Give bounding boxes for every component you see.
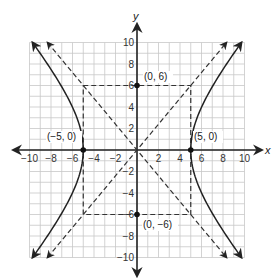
point-right-vertex	[188, 147, 194, 153]
x-tick-label: 4	[177, 153, 183, 164]
x-tick-label: −6	[67, 153, 79, 164]
x-tick-label: 6	[199, 153, 205, 164]
label-top-covertex: (0, 6)	[144, 71, 167, 82]
x-tick-label: −4	[88, 153, 100, 164]
hyperbola-graph: x y −10−8−6−4−2246810−10−8−6−4−2246810 (…	[0, 0, 276, 280]
x-tick-label: −8	[45, 153, 57, 164]
y-axis-label: y	[132, 10, 140, 22]
y-tick-label: −2	[123, 166, 135, 177]
x-axis-label: x	[264, 144, 271, 156]
y-tick-label: 10	[123, 37, 135, 48]
y-tick-label: 8	[128, 59, 134, 70]
label-right-vertex: (5, 0)	[194, 131, 217, 142]
y-tick-label: −8	[123, 231, 135, 242]
point-left-vertex	[80, 147, 86, 153]
label-bottom-covertex: (0, −6)	[143, 219, 172, 230]
y-tick-label: −4	[123, 188, 135, 199]
x-tick-label: −2	[110, 153, 122, 164]
point-bottom-covertex	[134, 212, 140, 218]
y-tick-label: 4	[128, 102, 134, 113]
y-tick-label: 2	[128, 123, 134, 134]
y-tick-label: −10	[117, 252, 134, 263]
x-tick-label: 10	[239, 153, 251, 164]
x-tick-label: 8	[220, 153, 226, 164]
x-tick-label: −10	[21, 153, 38, 164]
label-left-vertex: (−5, 0)	[47, 131, 76, 142]
point-top-covertex	[134, 83, 140, 89]
x-tick-label: 2	[156, 153, 162, 164]
